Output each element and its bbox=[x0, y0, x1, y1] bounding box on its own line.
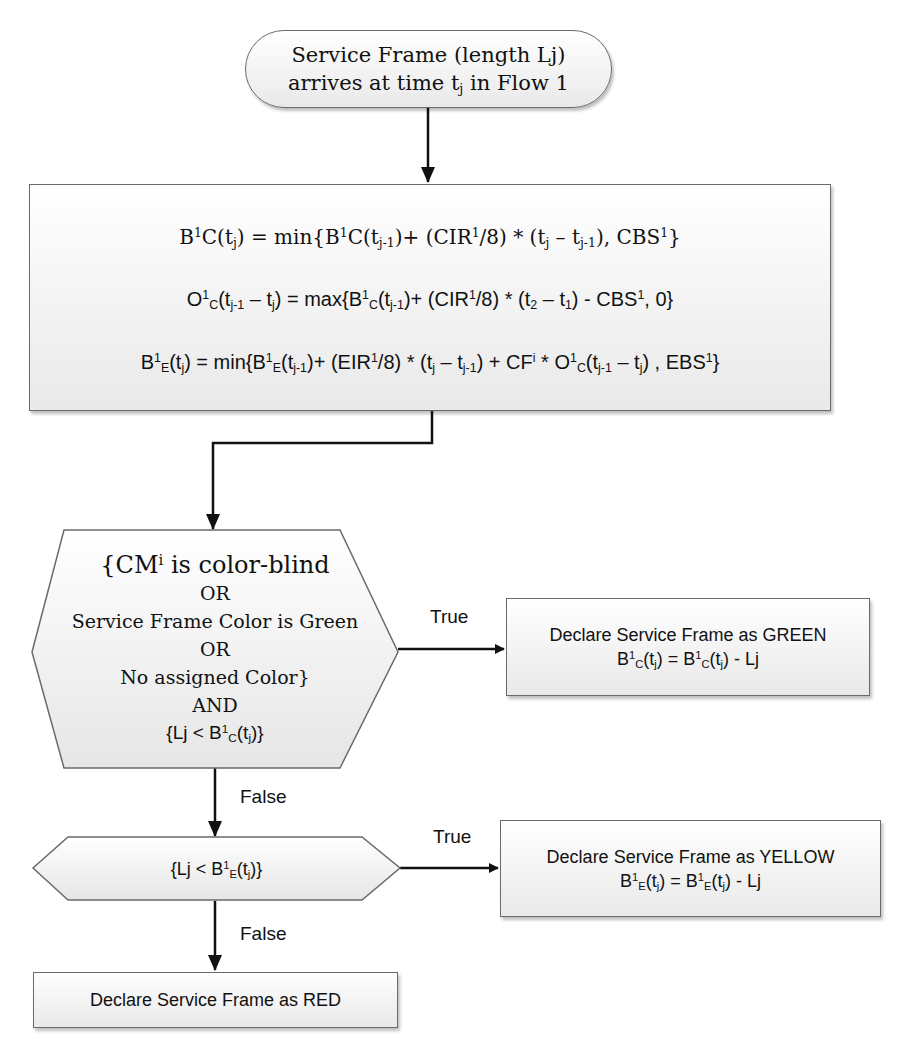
decision2-text: {Lj < B1E(tj)} bbox=[33, 840, 400, 898]
decision1-line-colorblind: {CMi is color-blind bbox=[100, 551, 329, 579]
edge-label-false1: False bbox=[240, 786, 286, 808]
decision1-text: {CMi is color-blind OR Service Frame Col… bbox=[32, 534, 398, 764]
formula-be: B1E(tj) = min{B1E(tj-1)+ (EIR1/8) * (tj … bbox=[141, 351, 720, 374]
start-line2: arrives at time tj in Flow 1 bbox=[288, 69, 569, 97]
edge-label-true2: True bbox=[433, 826, 471, 848]
decision1-line-or2: OR bbox=[200, 635, 230, 663]
formula-oc: O1C(tj-1 – tj) = max{B1C(tj-1)+ (CIR1/8)… bbox=[187, 288, 673, 311]
decision1-line-green: Service Frame Color is Green bbox=[72, 607, 358, 635]
decision1-line-or1: OR bbox=[200, 579, 230, 607]
yellow-formula: B1E(tj) = B1E(tj) - Lj bbox=[620, 869, 761, 893]
start-terminator: Service Frame (length Lj) arrives at tim… bbox=[245, 30, 612, 108]
start-line1: Service Frame (length Lj) bbox=[291, 41, 565, 69]
formula-bc: B1C(tj) = min{B1C(tj-1)+ (CIR1/8) * (tj … bbox=[179, 225, 681, 249]
green-title: Declare Service Frame as GREEN bbox=[549, 623, 826, 647]
edge-label-true1: True bbox=[430, 606, 468, 628]
decision1-line-lj: {Lj < B1C(tj)} bbox=[166, 719, 263, 747]
red-declare-box: Declare Service Frame as RED bbox=[33, 972, 398, 1028]
decision1-line-noassigned: No assigned Color} bbox=[120, 663, 310, 691]
decision1-line-and: AND bbox=[192, 691, 238, 719]
arrow-formula-to-decision1 bbox=[213, 411, 432, 529]
green-declare-box: Declare Service Frame as GREEN B1C(tj) =… bbox=[506, 598, 870, 696]
red-title: Declare Service Frame as RED bbox=[90, 990, 341, 1011]
yellow-title: Declare Service Frame as YELLOW bbox=[547, 845, 835, 869]
formula-process-box: B1C(tj) = min{B1C(tj-1)+ (CIR1/8) * (tj … bbox=[29, 184, 831, 411]
yellow-declare-box: Declare Service Frame as YELLOW B1E(tj) … bbox=[500, 820, 881, 917]
green-formula: B1C(tj) = B1C(tj) - Lj bbox=[617, 647, 759, 671]
edge-label-false2: False bbox=[240, 923, 286, 945]
decision2-condition: {Lj < B1E(tj)} bbox=[171, 859, 263, 880]
